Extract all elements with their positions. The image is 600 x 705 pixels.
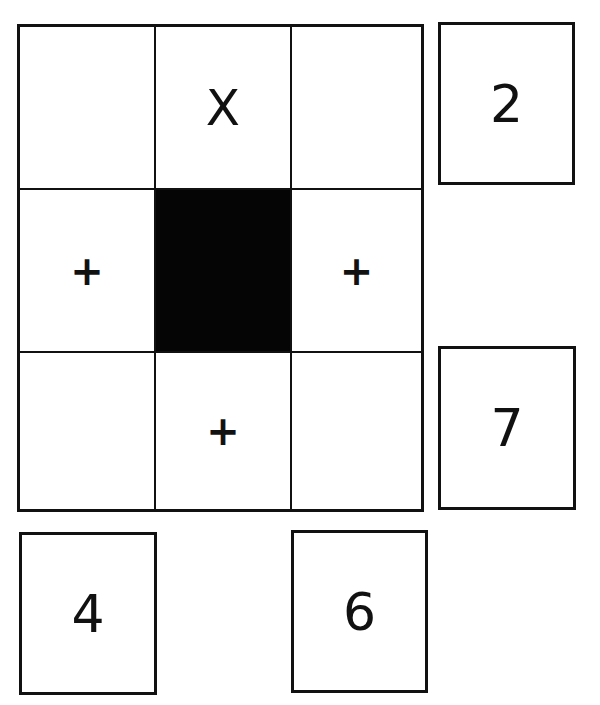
grid-cell-r3c2: + <box>156 353 292 509</box>
number-label: 6 <box>343 582 376 642</box>
grid-cell-r1c3 <box>292 27 421 190</box>
number-label: 7 <box>490 398 523 458</box>
plus-icon: + <box>206 411 240 451</box>
grid-cell-r2c3: + <box>292 190 421 353</box>
plus-icon: + <box>340 251 374 291</box>
number-label: 4 <box>71 584 104 644</box>
number-box-right-bottom: 7 <box>438 346 576 510</box>
number-label: 2 <box>490 74 523 134</box>
grid-cell-r2c2-filled <box>156 190 292 353</box>
plus-icon: + <box>70 251 104 291</box>
three-by-three-grid: X + + + <box>17 24 424 512</box>
grid-cell-r1c1 <box>20 27 156 190</box>
grid-cell-r2c1: + <box>20 190 156 353</box>
grid-cell-r3c1 <box>20 353 156 509</box>
number-box-right-top: 2 <box>438 22 575 185</box>
number-box-bottom-left: 4 <box>19 532 157 695</box>
grid-cell-r1c2: X <box>156 27 292 190</box>
number-box-bottom-right: 6 <box>291 530 428 693</box>
x-mark-icon: X <box>206 83 240 133</box>
grid-cell-r3c3 <box>292 353 421 509</box>
